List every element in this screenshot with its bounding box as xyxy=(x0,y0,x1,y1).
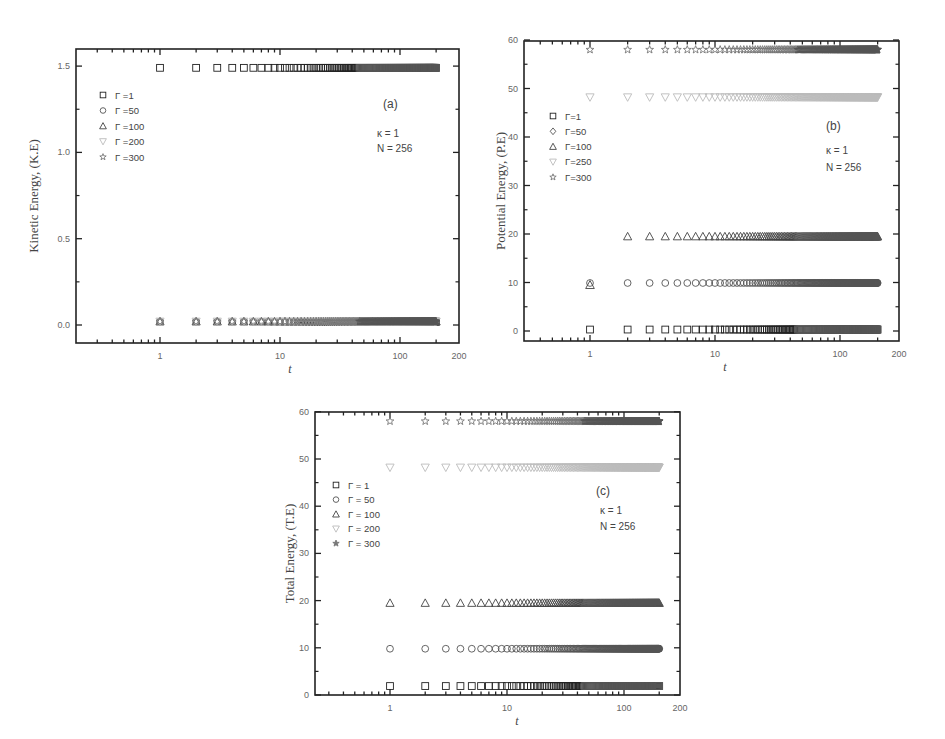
series-100 xyxy=(386,599,663,606)
x-tick-label: 1 xyxy=(387,703,392,713)
legend-entry-label: Γ = 300 xyxy=(348,538,380,549)
x-axis-label: t xyxy=(515,714,519,728)
chart-panel-c: 1101002000102030405060Total Energy, (T.E… xyxy=(0,0,945,739)
data-series xyxy=(386,417,663,689)
y-tick-label: 0 xyxy=(304,690,309,700)
y-tick-label: 20 xyxy=(299,596,309,606)
y-tick-label: 60 xyxy=(299,407,309,417)
legend-entry-label: Γ = 1 xyxy=(348,480,369,491)
n-annotation: N = 256 xyxy=(600,521,636,532)
y-axis-label: Total Energy, (T.E) xyxy=(282,504,297,604)
kappa-annotation: κ = 1 xyxy=(600,505,622,516)
x-tick-label: 10 xyxy=(502,703,512,713)
series-200 xyxy=(386,464,663,471)
y-tick-label: 10 xyxy=(299,643,309,653)
y-tick-label: 30 xyxy=(299,548,309,558)
x-tick-label: 100 xyxy=(616,703,631,713)
legend-entry-label: Γ = 50 xyxy=(348,494,375,505)
panel-label: (c) xyxy=(596,484,610,498)
series-1 xyxy=(387,683,663,690)
legend-entry-label: Γ = 100 xyxy=(348,509,380,520)
y-tick-label: 50 xyxy=(299,454,309,464)
legend: Γ = 1Γ = 50Γ = 100Γ = 200Γ = 300 xyxy=(333,480,380,549)
total-energy-plot: 1101002000102030405060Total Energy, (T.E… xyxy=(0,0,945,739)
series-50 xyxy=(387,645,663,652)
legend-entry-label: Γ = 200 xyxy=(348,523,380,534)
x-tick-label: 200 xyxy=(672,703,687,713)
series-300 xyxy=(386,417,663,424)
y-tick-label: 40 xyxy=(299,501,309,511)
